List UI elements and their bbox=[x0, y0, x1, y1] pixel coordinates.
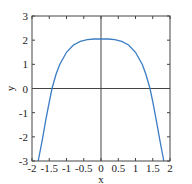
x-tick-label: 1 bbox=[133, 162, 139, 174]
x-axis-label: x bbox=[98, 173, 104, 184]
x-tick-label: -1 bbox=[62, 162, 71, 174]
y-tick-label: 2 bbox=[23, 34, 29, 46]
y-tick-label: -3 bbox=[19, 155, 29, 167]
chart: -2-1.5-1-0.500.511.52-3-2-10123xy bbox=[0, 0, 192, 184]
x-tick-label: -1.5 bbox=[41, 162, 59, 174]
y-tick-label: -2 bbox=[19, 131, 28, 143]
x-tick-label: 1.5 bbox=[146, 162, 160, 174]
y-tick-label: 1 bbox=[23, 58, 29, 70]
y-tick-label: -1 bbox=[19, 107, 28, 119]
y-tick-label: 3 bbox=[23, 10, 29, 22]
x-tick-label: 0.5 bbox=[111, 162, 125, 174]
y-tick-label: 0 bbox=[23, 83, 29, 95]
x-tick-label: -0.5 bbox=[75, 162, 93, 174]
y-axis-label: y bbox=[4, 85, 16, 91]
x-tick-label: 2 bbox=[167, 162, 173, 174]
x-tick-label: -2 bbox=[27, 162, 36, 174]
